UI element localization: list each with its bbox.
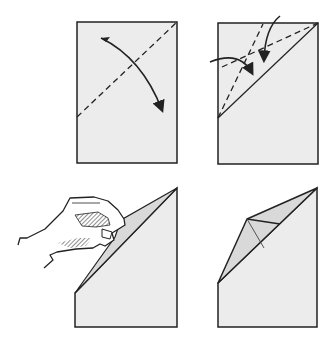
paper-sheet [77,22,177,163]
step-2-panel [210,16,318,164]
step-3-panel [18,188,177,327]
origami-diagram [0,0,336,347]
step-1-panel [77,22,177,163]
step-4-panel [218,188,317,327]
paper-sheet [218,23,318,164]
